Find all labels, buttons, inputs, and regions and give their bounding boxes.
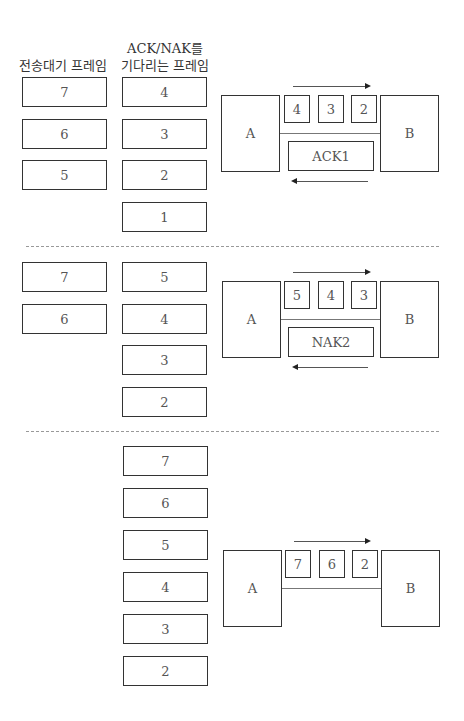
link-line [282,588,381,589]
awaiting-frame: 5 [123,530,208,560]
transit-frame: 2 [352,550,378,578]
transit-frame: 3 [351,281,377,309]
awaiting-frame: 6 [123,488,208,518]
pending-frame: 5 [22,160,107,190]
awaiting-frame: 4 [122,304,207,334]
pending-frame: 7 [22,262,107,292]
awaiting-frame: 4 [122,77,207,107]
section-divider [26,431,439,432]
section-divider [26,246,439,247]
receiver-node-b: B [381,550,440,627]
forward-arrow-icon [294,541,366,542]
sender-node-a: A [221,95,280,172]
awaiting-frame: 3 [122,119,207,149]
forward-arrow-icon [293,86,366,87]
forward-arrow-icon [293,272,366,273]
pending-frame: 6 [22,119,107,149]
receiver-node-b: B [380,281,439,358]
awaiting-frame: 7 [123,446,208,476]
receiver-node-b: B [380,95,439,172]
nak-response: NAK2 [288,327,374,357]
awaiting-frame: 2 [123,656,208,686]
awaiting-frame: 3 [122,345,207,375]
awaiting-frame: 4 [123,572,208,602]
sender-node-a: A [223,550,282,627]
transit-frame: 5 [284,281,310,309]
sender-node-a: A [222,281,281,358]
pending-frame: 7 [22,77,107,107]
awaiting-frame: 2 [122,387,207,417]
link-line [280,133,380,134]
transit-frame: 6 [319,550,345,578]
awaiting-ack-header-line2: 기다리는 프레임 [118,58,212,74]
backward-arrow-icon [296,181,368,182]
pending-frames-header: 전송대기 프레임 [4,58,122,74]
backward-arrow-icon [297,367,368,368]
awaiting-ack-header-line1: ACK/NAK를 [118,41,212,57]
transit-frame: 7 [285,550,311,578]
awaiting-frame: 5 [122,262,207,292]
ack-response: ACK1 [288,141,374,171]
transit-frame: 4 [284,95,310,123]
transit-frame: 2 [351,95,377,123]
awaiting-frame: 1 [122,202,207,232]
link-line [281,319,380,320]
awaiting-frame: 3 [123,614,208,644]
transit-frame: 3 [318,95,344,123]
transit-frame: 4 [318,281,344,309]
pending-frame: 6 [22,304,107,334]
awaiting-frame: 2 [122,160,207,190]
